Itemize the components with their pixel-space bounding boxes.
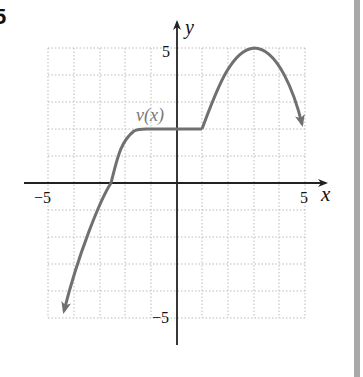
y-tick-5: 5: [162, 43, 170, 60]
y-tick-neg5: −5: [152, 309, 169, 326]
x-axis-label: x: [320, 182, 331, 206]
y-axis-label: y: [183, 16, 194, 39]
function-label: v(x): [136, 105, 164, 126]
function-graph: y x 5 −5 −5 5 v(x): [0, 0, 363, 377]
page-edge-bar: [354, 0, 360, 377]
curve-v: [64, 183, 111, 311]
x-tick-neg5: −5: [34, 189, 51, 206]
x-tick-5: 5: [300, 189, 308, 206]
